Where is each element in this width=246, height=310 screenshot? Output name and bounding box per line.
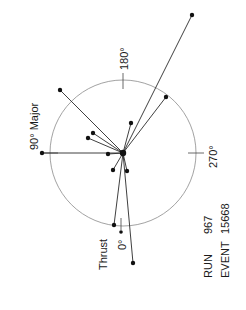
vector-endpoint [40, 151, 44, 155]
label-180: 180° [118, 47, 130, 70]
label-0: 0° [116, 239, 128, 250]
run-value: 967 [202, 216, 214, 234]
vector-endpoint [91, 131, 95, 135]
vector-endpoint [58, 88, 62, 92]
event-label: EVENT [219, 241, 231, 278]
vector-line [88, 138, 123, 153]
vector-line [93, 133, 123, 153]
thrust-arrow-tip [119, 230, 123, 234]
vector-endpoint [106, 152, 110, 156]
label-thrust: Thrust [97, 239, 109, 270]
vector-line [123, 15, 192, 153]
vector-line [60, 90, 123, 153]
vector-endpoint [125, 169, 129, 173]
vector-endpoint [111, 168, 115, 172]
vertex-hub [120, 150, 126, 156]
vector-endpoint [164, 95, 168, 99]
event-display-diagram: 180° 90° Major 270° Thrust 0° RUN 967 EV… [0, 0, 246, 310]
vector-line [114, 153, 123, 225]
momentum-vectors [40, 13, 194, 265]
vector-endpoint [190, 13, 194, 17]
event-value: 15668 [219, 203, 231, 234]
vector-endpoint [86, 136, 90, 140]
vector-endpoint [129, 121, 133, 125]
vector-endpoint [131, 261, 135, 265]
run-label: RUN [202, 254, 214, 278]
vector-line [123, 97, 166, 153]
label-270: 270° [207, 145, 219, 168]
label-90-major: 90° Major [28, 102, 40, 150]
vector-endpoint [112, 223, 116, 227]
